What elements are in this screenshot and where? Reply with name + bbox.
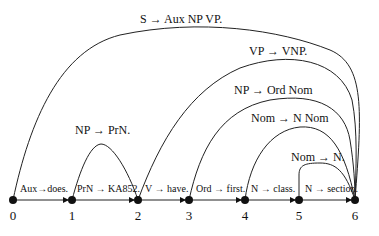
node-label-1: 1 xyxy=(69,208,76,223)
node-label-2: 2 xyxy=(135,208,142,223)
lex-label-4: N → class. xyxy=(251,183,295,194)
lex-label-3: Ord → first. xyxy=(196,183,245,194)
node-label-3: 3 xyxy=(186,208,193,223)
node-6 xyxy=(351,196,359,204)
arc-label-nom-nnom: Nom → N Nom xyxy=(251,111,329,125)
node-label-5: 5 xyxy=(296,208,303,223)
lex-label-2: V → have. xyxy=(145,183,188,194)
node-0 xyxy=(9,196,17,204)
node-label-6: 6 xyxy=(352,208,359,223)
arc-vp xyxy=(138,59,356,200)
arc-label-nom-n: Nom → N. xyxy=(291,150,345,164)
lex-label-5: N → section. xyxy=(305,183,358,194)
node-3 xyxy=(185,196,193,204)
arc-label-np-prn: NP → PrN. xyxy=(75,123,130,137)
lex-label-1: PrN → KA852. xyxy=(77,183,140,194)
node-1 xyxy=(68,196,76,204)
lex-label-0: Aux→does. xyxy=(20,183,68,194)
node-5 xyxy=(295,196,303,204)
node-4 xyxy=(241,196,249,204)
arc-label-s: S → Aux NP VP. xyxy=(140,12,222,26)
node-2 xyxy=(134,196,142,204)
node-label-4: 4 xyxy=(242,208,249,223)
node-label-0: 0 xyxy=(10,208,17,223)
chart-parse-diagram: 0 1 2 3 4 5 6 Aux→does. PrN → KA852. V →… xyxy=(0,0,379,236)
arc-label-np-ordnom: NP → Ord Nom xyxy=(234,83,313,97)
arc-label-vp: VP → VNP. xyxy=(249,44,307,58)
